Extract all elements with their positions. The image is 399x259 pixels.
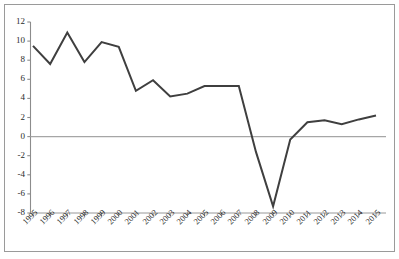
y-axis-label: 0 bbox=[3, 132, 25, 141]
series-line-path bbox=[33, 33, 376, 207]
y-axis-label: -4 bbox=[3, 170, 25, 179]
data-series-line bbox=[33, 33, 376, 207]
y-axis-label: -2 bbox=[3, 151, 25, 160]
y-axis-label: 10 bbox=[3, 36, 25, 45]
y-axis-label: 12 bbox=[3, 17, 25, 26]
y-axis-label: 6 bbox=[3, 74, 25, 83]
axis-layer bbox=[27, 22, 386, 216]
y-axis-label: 8 bbox=[3, 55, 25, 64]
y-axis-label: -6 bbox=[3, 189, 25, 198]
y-axis-label: 4 bbox=[3, 93, 25, 102]
y-axis-label: -8 bbox=[3, 208, 25, 217]
y-axis-label: 2 bbox=[3, 113, 25, 122]
chart-figure: 121086420-2-4-6-8 1995199619971998199920… bbox=[0, 0, 399, 259]
